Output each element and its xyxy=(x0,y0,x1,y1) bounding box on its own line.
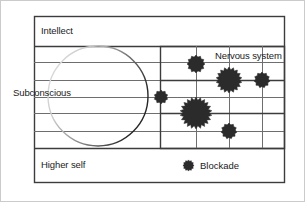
diagram-figure: Intellect Subconscious Higher self Nervo… xyxy=(0,0,305,202)
blockade-icon xyxy=(182,159,195,172)
zone-label-nervous-system: Nervous system xyxy=(215,51,282,61)
legend-label-blockade: Blockade xyxy=(200,161,239,171)
legend-marker-shape xyxy=(183,160,194,171)
zone-label-higher-self: Higher self xyxy=(41,160,85,170)
legend: Blockade xyxy=(182,159,239,172)
zone-label-subconscious: Subconscious xyxy=(13,88,71,98)
zone-label-intellect: Intellect xyxy=(41,26,73,36)
